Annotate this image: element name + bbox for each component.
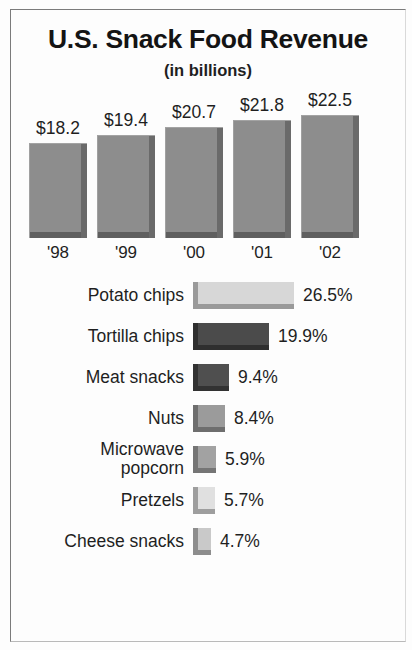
page-title: U.S. Snack Food Revenue xyxy=(25,26,391,54)
revenue-bar-column: $22.5'02 xyxy=(299,92,361,261)
market-share-row: Tortilla chips19.9% xyxy=(25,316,391,357)
revenue-bar-year-label: '99 xyxy=(95,244,157,261)
chart-content: U.S. Snack Food Revenue (in billions) $1… xyxy=(11,10,405,641)
market-share-category-label: Nuts xyxy=(25,409,193,428)
page-subtitle: (in billions) xyxy=(25,61,391,80)
market-share-row: Nuts8.4% xyxy=(25,398,391,439)
chart-frame-border: U.S. Snack Food Revenue (in billions) $1… xyxy=(10,9,406,642)
revenue-bar-year-label: '02 xyxy=(299,244,361,261)
revenue-bar-value-label: $19.4 xyxy=(95,112,157,130)
market-share-bar-chart: Potato chips26.5%Tortilla chips19.9%Meat… xyxy=(25,275,391,562)
revenue-bar-year-label: '98 xyxy=(27,244,89,261)
market-share-row: Pretzels5.7% xyxy=(25,480,391,521)
bar-bevel-left xyxy=(193,446,198,473)
market-share-bar-shape xyxy=(193,364,229,391)
market-share-row: Potato chips26.5% xyxy=(25,275,391,316)
market-share-percent-label: 26.5% xyxy=(294,285,353,306)
market-share-percent-label: 8.4% xyxy=(225,408,274,429)
market-share-percent-label: 5.9% xyxy=(216,449,265,470)
revenue-bar-value-label: $21.8 xyxy=(231,97,293,115)
revenue-bar-value-label: $20.7 xyxy=(163,104,225,122)
revenue-bar-column: $21.8'01 xyxy=(231,97,293,261)
bar-bevel-bottom xyxy=(193,304,294,309)
revenue-bar-shape xyxy=(165,127,223,238)
market-share-percent-label: 4.7% xyxy=(211,531,260,552)
revenue-bar-year-label: '00 xyxy=(163,244,225,261)
bar-bevel-left xyxy=(193,323,198,350)
revenue-bar-shape xyxy=(301,115,359,238)
market-share-bar-shape xyxy=(193,323,269,350)
market-share-category-label: Potato chips xyxy=(25,286,193,305)
infographic-panel: U.S. Snack Food Revenue (in billions) $1… xyxy=(0,0,412,650)
market-share-percent-label: 5.7% xyxy=(215,490,264,511)
market-share-bar-shape xyxy=(193,446,216,473)
market-share-bar-shape xyxy=(193,487,215,514)
revenue-bar-shape xyxy=(29,143,87,238)
market-share-row: Microwavepopcorn5.9% xyxy=(25,439,391,480)
bar-bevel-left xyxy=(193,364,198,391)
bar-bevel-left xyxy=(193,282,198,309)
revenue-bar-column: $19.4'99 xyxy=(95,112,157,261)
market-share-bar-shape xyxy=(193,405,225,432)
revenue-bar-column: $20.7'00 xyxy=(163,104,225,261)
revenue-bar-shape xyxy=(97,135,155,238)
market-share-bar-shape xyxy=(193,282,294,309)
revenue-bar-column: $18.2'98 xyxy=(27,120,89,261)
revenue-bar-value-label: $18.2 xyxy=(27,120,89,138)
revenue-bar-chart: $18.2'98$19.4'99$20.7'00$21.8'01$22.5'02 xyxy=(25,89,391,261)
market-share-category-label: Meat snacks xyxy=(25,368,193,387)
bar-bevel-bottom xyxy=(193,345,269,350)
market-share-category-label: Pretzels xyxy=(25,491,193,510)
bar-bevel-left xyxy=(193,528,198,555)
bar-bevel-left xyxy=(193,487,198,514)
market-share-row: Cheese snacks4.7% xyxy=(25,521,391,562)
market-share-percent-label: 19.9% xyxy=(269,326,328,347)
market-share-bar-shape xyxy=(193,528,211,555)
bar-bevel-left xyxy=(193,405,198,432)
market-share-category-label: Microwavepopcorn xyxy=(25,440,193,478)
market-share-row: Meat snacks9.4% xyxy=(25,357,391,398)
market-share-percent-label: 9.4% xyxy=(229,367,278,388)
market-share-category-label: Cheese snacks xyxy=(25,532,193,551)
market-share-category-label: Tortilla chips xyxy=(25,327,193,346)
revenue-bar-year-label: '01 xyxy=(231,244,293,261)
revenue-bar-value-label: $22.5 xyxy=(299,92,361,110)
revenue-bar-shape xyxy=(233,120,291,238)
bar-bevel-bottom xyxy=(193,386,229,391)
